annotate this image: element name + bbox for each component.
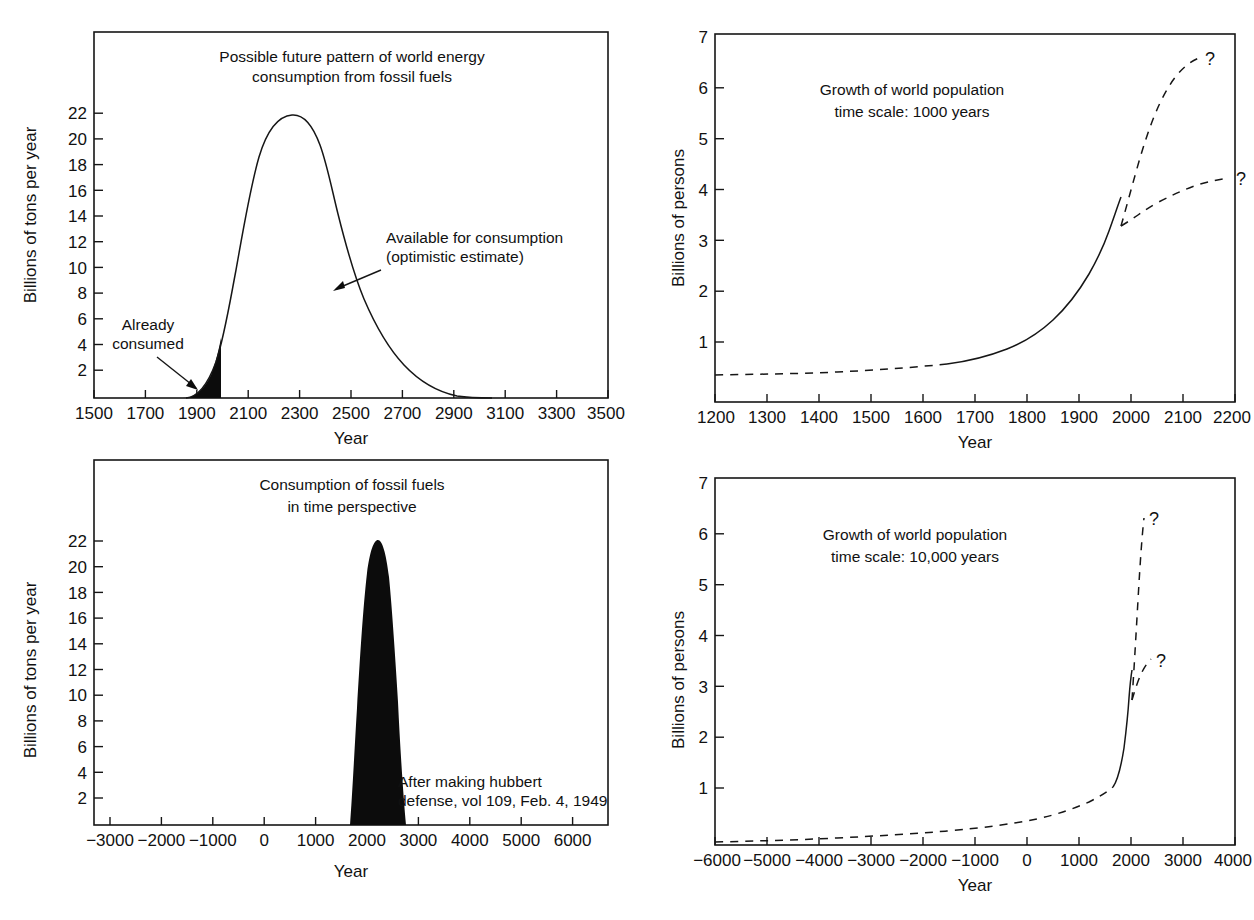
y-tick-marks bbox=[715, 88, 724, 342]
x-tick-label: 3100 bbox=[486, 404, 524, 423]
x-tick-label: 1700 bbox=[126, 404, 164, 423]
panel-title-line-2: time scale: 10,000 years bbox=[831, 548, 999, 565]
x-tick-label: 2100 bbox=[1164, 408, 1202, 427]
y-tick-label: 1 bbox=[699, 779, 708, 798]
x-tick-label: −2000 bbox=[899, 851, 947, 870]
already-consumed-label-line-2: consumed bbox=[112, 335, 184, 352]
panel-population-10000-years: Billions of persons 1 2 3 4 5 6 7 bbox=[627, 440, 1254, 920]
y-tick-label: 14 bbox=[68, 207, 87, 226]
x-tick-labels: −6000 −5000 −4000 −3000 −2000 −1000 0 10… bbox=[693, 851, 1252, 870]
x-tick-label: 1500 bbox=[75, 404, 113, 423]
available-for-consumption-label-line-2: (optimistic estimate) bbox=[386, 248, 524, 265]
x-tick-marks bbox=[715, 837, 1235, 845]
x-tick-label: 1600 bbox=[904, 408, 942, 427]
y-tick-label: 18 bbox=[68, 584, 87, 603]
y-tick-label: 1 bbox=[699, 333, 708, 352]
y-tick-label: 14 bbox=[68, 635, 87, 654]
x-tick-marks bbox=[715, 394, 1235, 402]
observed-population-curve bbox=[1113, 670, 1132, 787]
y-tick-label: 4 bbox=[78, 764, 87, 783]
y-tick-marks bbox=[94, 541, 103, 798]
y-tick-label: 8 bbox=[78, 712, 87, 731]
y-tick-labels: 2 4 6 8 10 12 14 16 18 20 22 bbox=[68, 104, 87, 380]
source-credit-line-1: After making hubbert bbox=[398, 773, 543, 790]
x-tick-label: 5000 bbox=[502, 831, 540, 850]
y-tick-label: 5 bbox=[699, 576, 708, 595]
panel-title-line-2: consumption from fossil fuels bbox=[252, 68, 452, 85]
x-tick-label: −3000 bbox=[847, 851, 895, 870]
x-tick-label: −1000 bbox=[189, 831, 237, 850]
x-tick-label: 3300 bbox=[538, 404, 576, 423]
y-tick-label: 12 bbox=[68, 661, 87, 680]
high-projection-question-mark: ? bbox=[1205, 49, 1215, 69]
y-tick-label: 3 bbox=[699, 232, 708, 251]
x-axis-title: Year bbox=[958, 876, 993, 895]
already-consumed-label-line-1: Already bbox=[122, 316, 175, 333]
x-tick-label: 1900 bbox=[178, 404, 216, 423]
y-axis-title: Billions of tons per year bbox=[21, 126, 40, 303]
y-tick-label: 2 bbox=[78, 361, 87, 380]
x-tick-label: 0 bbox=[259, 831, 268, 850]
panel-energy-consumption-future: Billions of tons per year 2 4 6 bbox=[0, 0, 627, 450]
y-tick-labels: 1 2 3 4 5 6 7 bbox=[699, 474, 708, 798]
x-tick-label: −6000 bbox=[693, 851, 741, 870]
x-tick-marks bbox=[94, 390, 608, 398]
x-tick-label: 2000 bbox=[1112, 851, 1150, 870]
x-tick-label: 2300 bbox=[281, 404, 319, 423]
low-projection-question-mark: ? bbox=[1156, 651, 1166, 671]
x-tick-label: 1500 bbox=[852, 408, 890, 427]
x-tick-label: 2700 bbox=[383, 404, 421, 423]
y-tick-label: 7 bbox=[699, 28, 708, 47]
x-tick-label: −1000 bbox=[951, 851, 999, 870]
available-for-consumption-arrow-icon bbox=[333, 270, 381, 291]
y-tick-label: 22 bbox=[68, 532, 87, 551]
panel-title-line-2: in time perspective bbox=[287, 498, 416, 515]
panel-title-line-2: time scale: 1000 years bbox=[834, 103, 989, 120]
x-tick-label: 2900 bbox=[435, 404, 473, 423]
y-tick-marks bbox=[94, 113, 103, 370]
y-tick-label: 5 bbox=[699, 130, 708, 149]
y-tick-label: 2 bbox=[699, 282, 708, 301]
low-projection-question-mark: ? bbox=[1236, 169, 1246, 189]
x-tick-label: 0 bbox=[1022, 851, 1031, 870]
y-tick-label: 6 bbox=[699, 525, 708, 544]
already-consumed-arrow-icon bbox=[157, 357, 198, 390]
y-tick-label: 16 bbox=[68, 182, 87, 201]
y-tick-label: 4 bbox=[699, 181, 708, 200]
x-tick-label: 3500 bbox=[587, 404, 625, 423]
observed-population-curve bbox=[947, 197, 1121, 364]
available-for-consumption-label-line-1: Available for consumption bbox=[386, 229, 563, 246]
x-tick-label: 2000 bbox=[348, 831, 386, 850]
y-axis-title: Billions of persons bbox=[669, 611, 688, 749]
x-tick-label: 3000 bbox=[399, 831, 437, 850]
x-tick-label: 1000 bbox=[1060, 851, 1098, 870]
y-axis-title: Billions of tons per year bbox=[21, 581, 40, 758]
y-tick-labels: 2 4 6 8 10 12 14 16 18 20 22 bbox=[68, 532, 87, 808]
x-tick-label: 1800 bbox=[1008, 408, 1046, 427]
x-tick-label: 1900 bbox=[1060, 408, 1098, 427]
x-tick-label: −2000 bbox=[138, 831, 186, 850]
panel-fossil-fuel-time-perspective: Billions of tons per year 2 4 6 bbox=[0, 440, 627, 920]
x-tick-label: 1700 bbox=[956, 408, 994, 427]
x-tick-label: 1400 bbox=[800, 408, 838, 427]
page-bottom-margin bbox=[0, 900, 1254, 920]
y-tick-label: 2 bbox=[699, 728, 708, 747]
x-tick-label: 4000 bbox=[1214, 851, 1252, 870]
figure-root: Billions of tons per year 2 4 6 bbox=[0, 0, 1254, 920]
x-tick-label: 1000 bbox=[297, 831, 335, 850]
y-tick-label: 20 bbox=[68, 558, 87, 577]
x-tick-label: −4000 bbox=[795, 851, 843, 870]
source-credit-line-2: defense, vol 109, Feb. 4, 1949 bbox=[398, 792, 607, 809]
y-tick-label: 10 bbox=[68, 686, 87, 705]
y-tick-label: 12 bbox=[68, 233, 87, 252]
x-tick-labels: 1200 1300 1400 1500 1600 1700 1800 1900 … bbox=[697, 408, 1251, 427]
x-tick-label: 1300 bbox=[748, 408, 786, 427]
panel-title-line-1: Consumption of fossil fuels bbox=[259, 476, 444, 493]
high-projection-curve bbox=[1132, 518, 1144, 700]
y-tick-label: 6 bbox=[699, 79, 708, 98]
y-tick-label: 20 bbox=[68, 130, 87, 149]
historical-dashed-curve bbox=[715, 787, 1113, 842]
panel-population-1000-years: Billions of persons 1 2 3 4 5 6 7 bbox=[627, 0, 1254, 450]
y-tick-label: 16 bbox=[68, 609, 87, 628]
y-tick-label: 3 bbox=[699, 678, 708, 697]
